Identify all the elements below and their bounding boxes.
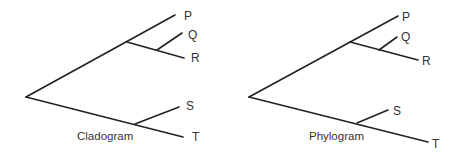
leaf-label-p: P — [184, 9, 192, 23]
branch-node-to-s — [135, 107, 179, 124]
leaf-label-s: S — [186, 99, 194, 113]
leaf-label-q: Q — [188, 28, 197, 42]
branch-node-to-r — [127, 42, 184, 58]
branch-root-to-p — [249, 16, 398, 97]
branch-node-to-r — [350, 42, 418, 60]
phylogram-caption: Phylogram — [309, 130, 364, 142]
branch-node-to-s — [357, 110, 388, 123]
branch-root-to-p — [26, 15, 175, 97]
leaf-label-p: P — [402, 10, 410, 24]
cladogram-caption: Cladogram — [77, 130, 133, 142]
leaf-label-t: T — [432, 137, 440, 151]
cladogram: P Q R S T Cladogram — [26, 9, 200, 144]
leaf-label-t: T — [192, 130, 200, 144]
tree-diagrams: P Q R S T Cladogram P Q R S T Phylogram — [0, 0, 462, 153]
leaf-label-s: S — [393, 104, 401, 118]
leaf-label-r: R — [422, 54, 431, 68]
leaf-label-r: R — [191, 51, 200, 65]
leaf-label-q: Q — [401, 30, 410, 44]
phylogram: P Q R S T Phylogram — [249, 10, 440, 151]
branch-node-to-q — [157, 33, 182, 50]
branch-node-to-q — [379, 37, 397, 50]
